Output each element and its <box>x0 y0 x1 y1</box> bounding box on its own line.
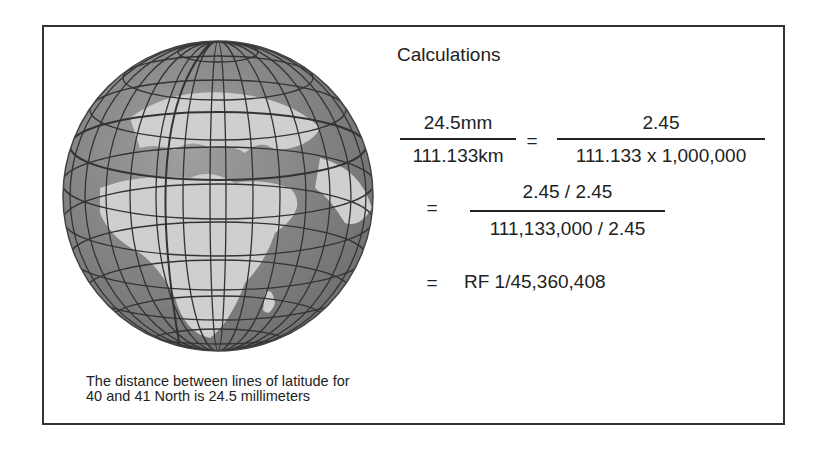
fraction3-denominator: 111,133,000 / 2.45 <box>470 218 665 240</box>
fraction2-denominator: 111.133 x 1,000,000 <box>557 145 765 167</box>
caption-line-1: The distance between lines of latitude f… <box>86 374 350 389</box>
fraction3-numerator: 2.45 / 2.45 <box>470 181 665 203</box>
result-rf: RF 1/45,360,408 <box>464 271 606 293</box>
fraction3-bar <box>470 210 665 212</box>
caption-line-2: 40 and 41 North is 24.5 millimeters <box>86 389 350 404</box>
fraction2-numerator: 2.45 <box>557 112 765 134</box>
fraction1-denominator: 111.133km <box>400 145 516 167</box>
caption: The distance between lines of latitude f… <box>86 374 350 404</box>
globe-icon <box>60 38 380 358</box>
equals-sign-3: = <box>424 272 440 294</box>
calculations-title: Calculations <box>397 44 501 66</box>
fraction1-bar <box>400 138 516 140</box>
fraction2-bar <box>557 138 765 140</box>
equals-sign-1: = <box>524 130 540 152</box>
equals-sign-2: = <box>424 197 440 219</box>
fraction1-numerator: 24.5mm <box>400 112 516 134</box>
